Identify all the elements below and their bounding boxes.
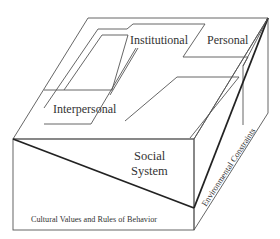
label-system: System <box>131 164 168 178</box>
institutional-lower-edge <box>110 48 138 95</box>
personal-drop <box>243 57 248 125</box>
label-social: Social <box>134 149 166 163</box>
label-cultural-values: Cultural Values and Rules of Behavior <box>31 215 157 224</box>
lower-block <box>125 77 239 138</box>
label-personal: Personal <box>207 33 249 47</box>
label-institutional: Institutional <box>130 33 189 47</box>
label-environmental-constraints: Environmental Constraints <box>199 126 257 208</box>
social-system-block-diagram: Institutional Personal Interpersonal Soc… <box>0 0 280 239</box>
inner-region-inner-edge <box>44 35 128 90</box>
label-interpersonal: Interpersonal <box>53 102 117 116</box>
